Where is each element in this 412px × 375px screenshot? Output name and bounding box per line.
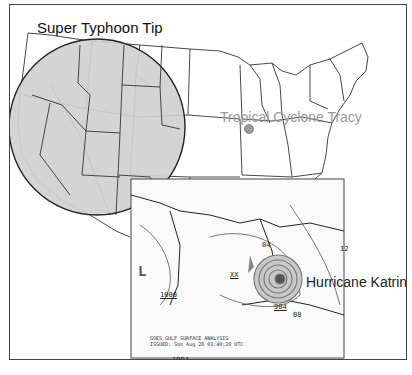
pressure-label-12: 12 bbox=[340, 245, 348, 253]
low-pressure-symbol: L bbox=[138, 263, 146, 279]
us-map bbox=[10, 5, 406, 359]
gulf-surface-analysis-inset bbox=[131, 179, 344, 358]
pressure-label-904: 904 bbox=[274, 303, 287, 311]
pressure-label-04: 04 bbox=[262, 241, 270, 249]
map-frame: Super Typhoon Tip Tropical Cyclone Tracy… bbox=[9, 4, 407, 360]
hurricane-katrina-rings bbox=[254, 255, 302, 303]
pressure-label-1004: 1004 bbox=[172, 356, 189, 360]
pressure-label-xx: XX bbox=[230, 271, 238, 279]
super-typhoon-tip-label: Super Typhoon Tip bbox=[37, 19, 163, 36]
pressure-label-1000: 1000 bbox=[160, 291, 177, 299]
pressure-label-08: 08 bbox=[293, 311, 301, 319]
inset-caption-line2: ISSUED: Sun Aug 28 03:40:28 UTC bbox=[150, 341, 243, 347]
tropical-cyclone-tracy-label: Tropical Cyclone Tracy bbox=[220, 109, 362, 125]
hurricane-katrina-label: Hurricane Katrina bbox=[306, 274, 407, 290]
inset-caption: GOES GULF SURFACE ANALYSIS ISSUED: Sun A… bbox=[150, 335, 243, 347]
tropical-cyclone-tracy-marker bbox=[245, 125, 254, 134]
